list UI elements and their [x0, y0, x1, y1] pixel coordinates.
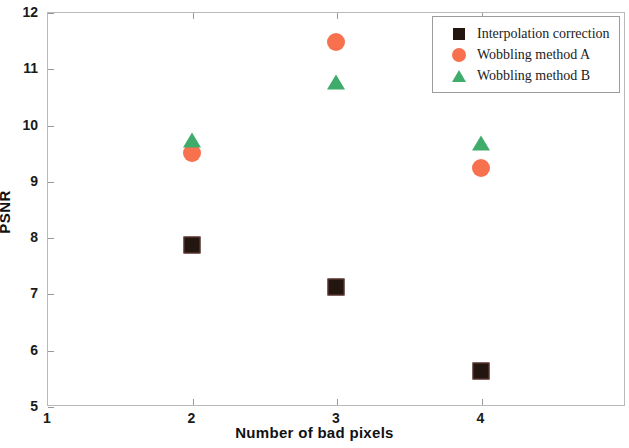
circle-marker-icon — [441, 48, 477, 62]
x-axis-tick-mark-top — [337, 13, 338, 19]
data-point-marker — [327, 33, 345, 51]
y-axis-tick-mark — [48, 351, 54, 352]
x-axis-title: Number of bad pixels — [0, 424, 629, 441]
legend-label: Wobbling method A — [477, 47, 590, 63]
x-axis-tick-label: 3 — [321, 410, 351, 426]
y-axis-tick-label: 7 — [8, 285, 38, 301]
y-axis-tick-mark — [48, 126, 54, 127]
y-axis-tick-mark — [48, 182, 54, 183]
y-axis-tick-mark — [48, 407, 54, 408]
y-axis-tick-mark — [48, 294, 54, 295]
y-axis-tick-label: 10 — [8, 117, 38, 133]
x-axis-tick-label: 4 — [466, 410, 496, 426]
legend-item-interpolation-correction: Interpolation correction — [441, 23, 613, 44]
data-point-marker — [327, 74, 345, 89]
y-axis-tick-label: 6 — [8, 342, 38, 358]
chart-legend: Interpolation correction Wobbling method… — [432, 16, 620, 93]
y-axis-tick-mark — [48, 13, 54, 14]
data-point-marker — [472, 362, 489, 379]
scatter-chart-figure: PSNR Number of bad pixels 56789101112123… — [0, 0, 629, 448]
x-axis-tick-label: 2 — [177, 410, 207, 426]
x-axis-tick-mark — [337, 399, 338, 405]
y-axis-title: PSNR — [0, 190, 13, 234]
data-point-marker — [183, 237, 200, 254]
y-axis-tick-label: 8 — [8, 229, 38, 245]
x-axis-tick-mark — [482, 399, 483, 405]
x-axis-tick-mark — [193, 399, 194, 405]
x-axis-tick-mark-top — [193, 13, 194, 19]
data-point-marker — [328, 278, 345, 295]
y-axis-tick-label: 11 — [8, 60, 38, 76]
y-axis-tick-mark — [48, 238, 54, 239]
y-axis-tick-label: 12 — [8, 4, 38, 20]
data-point-marker — [183, 132, 201, 147]
y-axis-tick-label: 9 — [8, 173, 38, 189]
legend-item-wobbling-method-a: Wobbling method A — [441, 44, 613, 65]
legend-label: Wobbling method B — [477, 68, 590, 84]
x-axis-tick-label: 1 — [32, 410, 62, 426]
legend-label: Interpolation correction — [477, 26, 610, 42]
data-point-marker — [472, 159, 490, 177]
square-marker-icon — [441, 28, 477, 40]
y-axis-tick-mark — [48, 69, 54, 70]
data-point-marker — [472, 135, 490, 150]
legend-item-wobbling-method-b: Wobbling method B — [441, 65, 613, 86]
triangle-marker-icon — [441, 70, 477, 82]
